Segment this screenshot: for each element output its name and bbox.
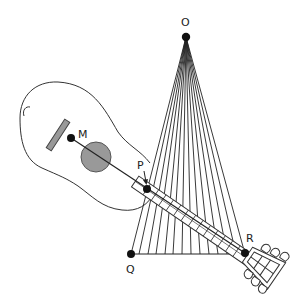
point-Q (127, 250, 135, 258)
label-Q: Q (126, 263, 135, 276)
strap-button (23, 107, 30, 116)
bridge-saddle (46, 119, 70, 151)
label-O: O (181, 16, 190, 29)
point-R (241, 249, 249, 257)
label-M: M (78, 128, 88, 141)
string-MR (71, 138, 245, 253)
point-P (143, 185, 151, 193)
soundhole (81, 142, 111, 172)
point-O (182, 33, 190, 41)
label-R: R (246, 232, 254, 245)
guitar-diagram: O M P Q R (0, 0, 302, 308)
label-P: P (137, 159, 144, 172)
point-M (67, 134, 75, 142)
